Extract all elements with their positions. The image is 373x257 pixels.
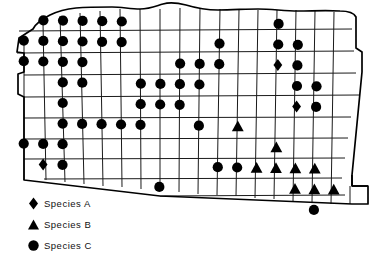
marker-circle bbox=[311, 102, 321, 112]
county-grid bbox=[17, 8, 359, 204]
marker-triangle bbox=[328, 184, 340, 195]
marker-circle bbox=[135, 120, 145, 130]
marker-triangle bbox=[251, 162, 263, 173]
marker-circle bbox=[194, 79, 204, 89]
marker-circle bbox=[311, 81, 321, 91]
legend-label-species-a: Species A bbox=[44, 198, 91, 209]
marker-diamond bbox=[292, 101, 301, 113]
marker-circle bbox=[38, 56, 48, 66]
marker-triangle bbox=[289, 183, 301, 194]
marker-circle bbox=[77, 36, 87, 46]
marker-circle bbox=[77, 57, 87, 67]
marker-triangle bbox=[309, 163, 321, 174]
marker-circle bbox=[117, 16, 127, 26]
marker-triangle bbox=[232, 120, 244, 131]
marker-triangle bbox=[308, 183, 320, 194]
legend-item-species-c: Species C bbox=[22, 235, 182, 256]
marker-diamond bbox=[273, 59, 282, 71]
marker-circle bbox=[77, 119, 87, 129]
marker-circle bbox=[57, 160, 67, 170]
marker-circle bbox=[273, 39, 283, 49]
legend-item-species-b: Species B bbox=[22, 214, 182, 235]
legend-label-species-c: Species C bbox=[44, 240, 92, 251]
marker-circle bbox=[194, 121, 204, 131]
marker-circle bbox=[117, 37, 127, 47]
marker-circle bbox=[58, 16, 68, 26]
marker-circle bbox=[214, 59, 224, 69]
marker-circle bbox=[19, 56, 29, 66]
marker-circle bbox=[155, 99, 165, 109]
marker-circle bbox=[175, 79, 185, 89]
marker-circle bbox=[77, 78, 87, 88]
marker-circle bbox=[292, 81, 302, 91]
marker-circle bbox=[96, 119, 106, 129]
marker-circle bbox=[213, 162, 223, 172]
marker-circle bbox=[38, 36, 48, 46]
marker-circle bbox=[175, 59, 185, 69]
marker-circle bbox=[175, 100, 185, 110]
marker-circle bbox=[274, 19, 284, 29]
marker-circle bbox=[155, 79, 165, 89]
marker-circle bbox=[19, 139, 29, 149]
marker-triangle bbox=[270, 162, 282, 173]
marker-circle bbox=[19, 36, 29, 46]
diamond-icon bbox=[22, 197, 44, 210]
marker-circle bbox=[58, 98, 68, 108]
legend-label-species-b: Species B bbox=[44, 219, 91, 230]
legend-item-species-a: Species A bbox=[22, 193, 182, 214]
marker-circle bbox=[136, 79, 146, 89]
marker-circle bbox=[136, 99, 146, 109]
circle-icon bbox=[22, 239, 44, 252]
marker-circle bbox=[97, 37, 107, 47]
triangle-icon bbox=[22, 218, 44, 231]
marker-triangle bbox=[289, 163, 301, 174]
marker-circle bbox=[58, 57, 68, 67]
marker-circle bbox=[38, 139, 48, 149]
marker-circle bbox=[116, 119, 126, 129]
marker-circle bbox=[195, 59, 205, 69]
marker-circle bbox=[78, 16, 88, 26]
legend: Species A Species B Species C bbox=[22, 193, 182, 256]
marker-circle bbox=[97, 16, 107, 26]
marker-circle bbox=[57, 139, 67, 149]
marker-circle bbox=[58, 119, 68, 129]
marker-circle bbox=[293, 40, 303, 50]
marker-circle bbox=[58, 77, 68, 87]
marker-circle bbox=[58, 36, 68, 46]
marker-circle bbox=[309, 205, 319, 215]
marker-circle bbox=[154, 182, 164, 192]
marker-triangle bbox=[270, 142, 282, 153]
marker-circle bbox=[232, 162, 242, 172]
marker-circle bbox=[214, 39, 224, 49]
marker-circle bbox=[292, 60, 302, 70]
marker-circle bbox=[38, 15, 48, 25]
